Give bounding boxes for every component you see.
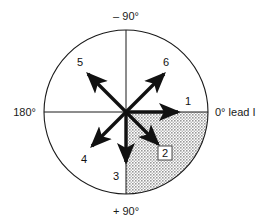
vector-label-4: 4 (81, 153, 87, 165)
axis-figure: – 90° + 90° 180° 0° lead I 1 2 3 4 5 6 (0, 0, 266, 224)
axis-label-180: 180° (13, 106, 36, 118)
axis-label-0-lead-i: 0° lead I (215, 106, 255, 118)
axis-label-minus-90: – 90° (113, 10, 139, 22)
cardiac-axis-diagram: – 90° + 90° 180° 0° lead I 1 2 3 4 5 6 (0, 0, 266, 224)
vector-arrow-6 (126, 74, 164, 112)
vector-label-5: 5 (77, 56, 83, 68)
vector-arrow-4 (92, 112, 126, 146)
vector-label-6: 6 (163, 56, 169, 68)
vector-label-2: 2 (162, 147, 168, 159)
axis-label-plus-90: + 90° (113, 205, 139, 217)
vector-label-3: 3 (113, 170, 119, 182)
vector-label-1: 1 (185, 95, 191, 107)
vector-arrow-5 (88, 74, 126, 112)
